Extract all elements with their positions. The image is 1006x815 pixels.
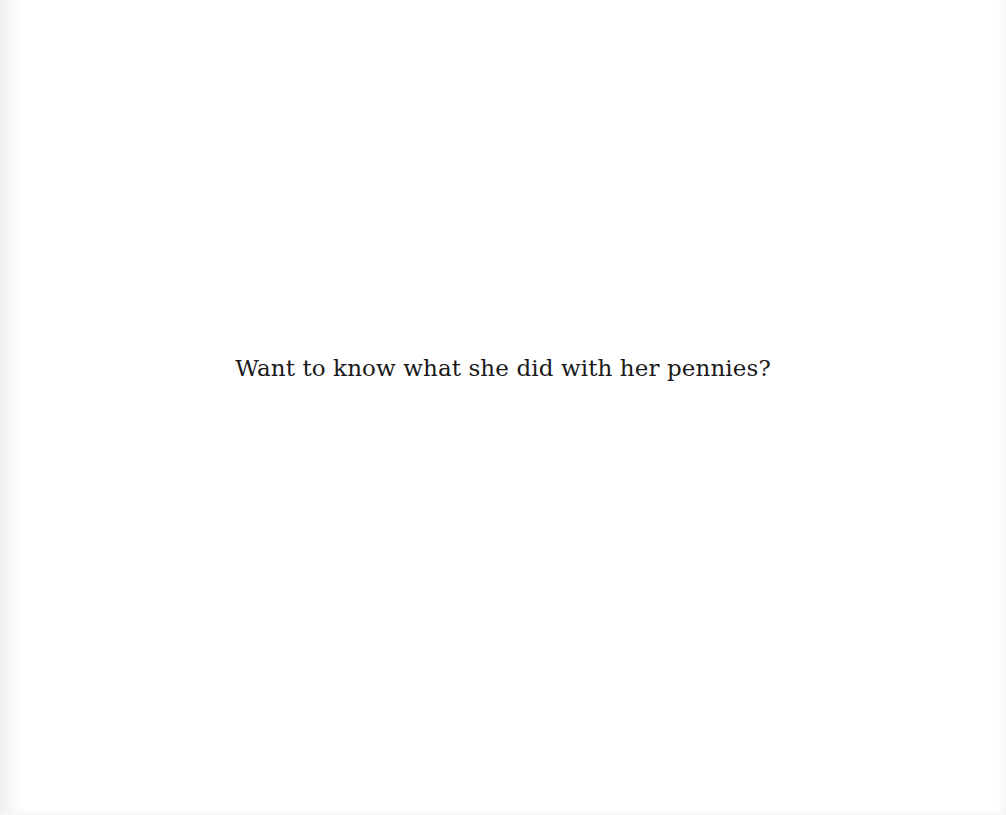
book-page: Want to know what she did with her penni… [0, 0, 1006, 815]
page-edge-shadow-left [0, 0, 22, 815]
page-text-line: Want to know what she did with her penni… [0, 355, 1006, 381]
page-edge-shadow-bottom [0, 809, 1006, 815]
page-edge-shadow-right [998, 0, 1006, 815]
